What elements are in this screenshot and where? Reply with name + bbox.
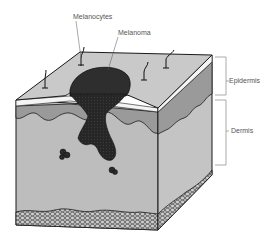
brackets (215, 57, 229, 165)
epidermis-label: Epidermis (229, 77, 260, 84)
skin-diagram (0, 0, 272, 247)
melanoma-label: Melanoma (118, 29, 151, 36)
front-face (16, 96, 158, 230)
melanocytes-label: Melanocytes (73, 13, 112, 20)
dermis-label: Dermis (231, 127, 253, 134)
